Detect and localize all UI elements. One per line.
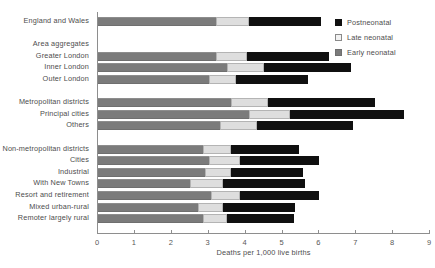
x-axis-tick-label: 9 xyxy=(419,238,435,247)
bar-segment-late-neonatal xyxy=(203,145,231,154)
category-label: Metropolitan districts xyxy=(19,97,89,106)
legend-item: Postneonatal xyxy=(335,16,433,29)
category-label: Outer London xyxy=(43,74,89,83)
legend-label: Early neonatal xyxy=(347,48,396,57)
bar-segment-late-neonatal xyxy=(205,168,231,177)
bar-segment-late-neonatal xyxy=(190,179,223,188)
x-axis-tick-label: 0 xyxy=(87,238,107,247)
x-axis-tick-mark xyxy=(245,230,246,234)
x-axis-line xyxy=(97,233,430,234)
legend-swatch-icon xyxy=(335,34,342,41)
infant-mortality-chart: England and WalesArea aggregatesGreater … xyxy=(0,0,435,268)
x-axis-tick-mark xyxy=(282,230,283,234)
bar-row xyxy=(98,98,375,107)
x-axis-title: Deaths per 1,000 live births xyxy=(97,248,430,257)
bar-segment-postneonatal xyxy=(231,145,299,154)
bar-segment-early-neonatal xyxy=(98,17,216,26)
bar-segment-early-neonatal xyxy=(98,63,227,72)
bar-segment-postneonatal xyxy=(290,110,404,119)
bar-segment-early-neonatal xyxy=(98,75,209,84)
bar-segment-late-neonatal xyxy=(216,52,247,61)
category-label: Industrial xyxy=(58,167,89,176)
x-axis-tick-mark xyxy=(97,230,98,234)
bar-segment-early-neonatal xyxy=(98,110,249,119)
legend-swatch-icon xyxy=(335,49,342,56)
bar-row xyxy=(98,110,404,119)
x-axis-tick-mark xyxy=(318,230,319,234)
category-label: Others xyxy=(66,120,89,129)
bar-segment-early-neonatal xyxy=(98,168,205,177)
category-label: Greater London xyxy=(36,51,89,60)
legend-label: Late neonatal xyxy=(347,33,393,42)
bar-segment-early-neonatal xyxy=(98,145,203,154)
bar-segment-early-neonatal xyxy=(98,156,209,165)
category-label: Remoter largely rural xyxy=(18,213,89,222)
bar-row xyxy=(98,214,294,223)
bar-segment-early-neonatal xyxy=(98,191,211,200)
x-axis-tick-label: 1 xyxy=(124,238,144,247)
bar-row xyxy=(98,52,329,61)
bar-row xyxy=(98,121,353,130)
category-label: Resort and retirement xyxy=(15,190,89,199)
category-label: England and Wales xyxy=(24,16,90,25)
bar-segment-postneonatal xyxy=(257,121,353,130)
bar-segment-postneonatal xyxy=(240,191,319,200)
bar-segment-postneonatal xyxy=(249,17,321,26)
x-axis-tick-mark xyxy=(171,230,172,234)
chart-legend: PostneonatalLate neonatalEarly neonatal xyxy=(335,16,433,61)
bar-row xyxy=(98,17,321,26)
bar-segment-late-neonatal xyxy=(198,203,224,212)
x-axis-tick-mark xyxy=(429,230,430,234)
category-label: Non-metropolitan districts xyxy=(2,144,89,153)
x-axis-tick-mark xyxy=(355,230,356,234)
x-axis-tick-label: 7 xyxy=(345,238,365,247)
bar-segment-late-neonatal xyxy=(231,98,268,107)
bar-segment-early-neonatal xyxy=(98,98,231,107)
bar-row xyxy=(98,203,295,212)
x-axis-tick-label: 8 xyxy=(382,238,402,247)
bar-segment-early-neonatal xyxy=(98,203,198,212)
bar-row xyxy=(98,145,299,154)
legend-label: Postneonatal xyxy=(347,18,391,27)
category-label: Mixed urban-rural xyxy=(29,202,89,211)
bar-segment-early-neonatal xyxy=(98,52,216,61)
bar-segment-postneonatal xyxy=(236,75,308,84)
bar-segment-late-neonatal xyxy=(209,156,240,165)
x-axis-tick-mark xyxy=(392,230,393,234)
bar-row xyxy=(98,63,351,72)
bar-segment-early-neonatal xyxy=(98,214,203,223)
category-label: Cities xyxy=(70,155,89,164)
x-axis-tick-label: 2 xyxy=(161,238,181,247)
category-label: With New Towns xyxy=(33,178,89,187)
legend-swatch-icon xyxy=(335,19,342,26)
bar-segment-late-neonatal xyxy=(203,214,227,223)
bar-segment-postneonatal xyxy=(240,156,319,165)
bar-segment-late-neonatal xyxy=(211,191,241,200)
x-axis-tick-label: 4 xyxy=(235,238,255,247)
x-axis-tick-mark xyxy=(208,230,209,234)
bar-segment-postneonatal xyxy=(264,63,351,72)
bar-row xyxy=(98,156,319,165)
bar-row xyxy=(98,179,305,188)
bar-row xyxy=(98,191,319,200)
x-axis-tick-label: 6 xyxy=(308,238,328,247)
bar-segment-late-neonatal xyxy=(249,110,290,119)
x-axis-tick-label: 3 xyxy=(198,238,218,247)
category-label: Inner London xyxy=(44,62,89,71)
bar-segment-postneonatal xyxy=(247,52,328,61)
bar-segment-postneonatal xyxy=(268,98,375,107)
bar-segment-postneonatal xyxy=(231,168,303,177)
bar-segment-postneonatal xyxy=(223,179,304,188)
bar-segment-late-neonatal xyxy=(227,63,264,72)
bar-segment-late-neonatal xyxy=(209,75,237,84)
bar-segment-postneonatal xyxy=(227,214,293,223)
group-header-label: Area aggregates xyxy=(33,39,89,48)
category-label-column: England and WalesArea aggregatesGreater … xyxy=(0,12,92,234)
category-label: Principal cities xyxy=(40,109,89,118)
x-axis-tick-mark xyxy=(134,230,135,234)
legend-item: Late neonatal xyxy=(335,31,433,44)
bar-segment-late-neonatal xyxy=(216,17,249,26)
bar-segment-late-neonatal xyxy=(220,121,257,130)
bar-row xyxy=(98,168,303,177)
bar-segment-early-neonatal xyxy=(98,179,190,188)
